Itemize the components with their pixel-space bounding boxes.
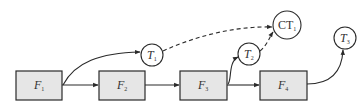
- box-f2: F2: [99, 71, 145, 100]
- node-ct1: CT1: [273, 11, 301, 39]
- node-t1: T1: [141, 44, 163, 66]
- box-f1: F1: [16, 71, 62, 100]
- edge-f3-t2: [228, 57, 238, 84]
- box-f4: F4: [260, 71, 307, 100]
- edge-f4-t3: [307, 50, 343, 84]
- node-t3: T3: [334, 27, 356, 49]
- box-f3: F3: [180, 71, 227, 100]
- flow-diagram: F1 F2 F3 F4 T1 T2 CT1 T3: [0, 0, 363, 109]
- node-t2: T2: [238, 43, 260, 65]
- edge-t2-ct1: [260, 32, 273, 51]
